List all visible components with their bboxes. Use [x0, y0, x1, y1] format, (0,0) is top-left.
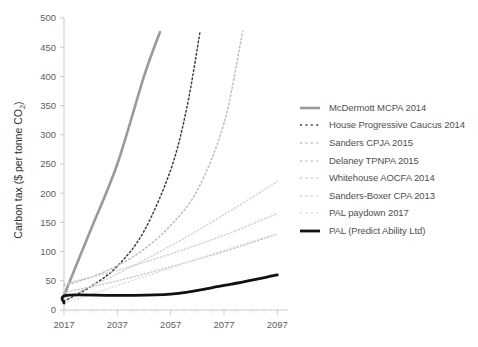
legend-swatch-icon: [299, 172, 321, 184]
x-tick-label: 2057: [160, 319, 181, 330]
legend-swatch-icon: [299, 102, 321, 114]
legend-item[interactable]: Sanders-Boxer CPA 2013: [299, 187, 478, 205]
series-line: [64, 234, 277, 303]
y-axis: 050100150200250300350400450500: [40, 12, 64, 315]
legend-item-label: PAL (Predict Ability Ltd): [329, 225, 425, 237]
legend-swatch-icon: [299, 119, 321, 131]
y-axis-title-main: Carbon tax ($ per tonne CO: [12, 109, 24, 239]
chart-svg: 050100150200250300350400450500 201720372…: [0, 0, 300, 347]
plot-area: 050100150200250300350400450500 201720372…: [0, 0, 300, 347]
legend-item[interactable]: House Progressive Caucus 2014: [299, 117, 478, 135]
legend-item-label: Whitehouse AOCFA 2014: [329, 172, 435, 184]
chart-legend: McDermott MCPA 2014House Progressive Cau…: [299, 99, 478, 240]
legend-item[interactable]: Sanders CPJA 2015: [299, 134, 478, 152]
legend-item[interactable]: PAL (Predict Ability Ltd): [299, 222, 478, 240]
legend-swatch-icon: [299, 137, 321, 149]
legend-item-label: PAL paydown 2017: [329, 207, 409, 219]
legend-item[interactable]: Whitehouse AOCFA 2014: [299, 169, 478, 187]
y-tick-label: 300: [40, 129, 56, 140]
series-line: [64, 31, 243, 285]
x-tick-label: 2037: [107, 319, 128, 330]
legend-item[interactable]: Delaney TPNPA 2015: [299, 152, 478, 170]
legend-swatch-icon: [299, 190, 321, 202]
y-tick-label: 150: [40, 217, 56, 228]
series-lines: [62, 31, 277, 303]
legend-item-label: Sanders-Boxer CPA 2013: [329, 190, 435, 202]
y-tick-label: 200: [40, 188, 56, 199]
x-tick-label: 2077: [213, 319, 234, 330]
series-line: [64, 32, 160, 295]
legend-item-label: Sanders CPJA 2015: [329, 137, 413, 149]
legend-swatch-icon: [299, 225, 321, 237]
x-axis: 20172037205720772097: [53, 310, 288, 330]
y-tick-label: 50: [45, 275, 56, 286]
y-axis-title-close: ): [12, 101, 24, 105]
legend-swatch-icon: [299, 155, 321, 167]
legend-item-label: House Progressive Caucus 2014: [329, 119, 465, 131]
series-line: [64, 214, 277, 284]
x-tick-label: 2097: [267, 319, 288, 330]
legend-item[interactable]: PAL paydown 2017: [299, 205, 478, 223]
legend-item[interactable]: McDermott MCPA 2014: [299, 99, 478, 117]
y-tick-label: 350: [40, 100, 56, 111]
y-tick-label: 500: [40, 12, 56, 23]
y-tick-label: 450: [40, 42, 56, 53]
legend-swatch-icon: [299, 207, 321, 219]
legend-item-label: McDermott MCPA 2014: [329, 102, 426, 114]
x-tick-label: 2017: [53, 319, 74, 330]
y-axis-title: Carbon tax ($ per tonne CO2): [12, 101, 27, 238]
carbon-tax-line-chart: 050100150200250300350400450500 201720372…: [0, 0, 478, 347]
series-line: [62, 275, 277, 303]
y-tick-label: 0: [51, 304, 56, 315]
y-tick-label: 400: [40, 71, 56, 82]
y-tick-label: 250: [40, 158, 56, 169]
series-line: [64, 32, 200, 301]
y-tick-label: 100: [40, 246, 56, 257]
legend-item-label: Delaney TPNPA 2015: [329, 155, 419, 167]
